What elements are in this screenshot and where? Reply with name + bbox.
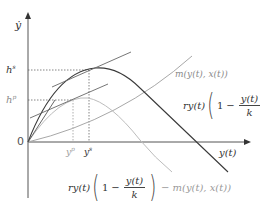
tangent-line-ys [52, 52, 131, 87]
net-numerator: y(t) [124, 175, 145, 188]
yp-label: yp [66, 146, 75, 157]
net-denominator: k [131, 188, 137, 200]
left-paren: ( [93, 172, 100, 202]
growth-denominator: k [246, 106, 252, 118]
net-prefix: ry(t) [68, 182, 90, 193]
hs-sup: s [12, 63, 15, 70]
net-growth-formula: ry(t) ( 1 − y(t) k ) − m(y(t), x(t)) [68, 172, 231, 202]
net-minus: − [111, 182, 119, 193]
origin-label: 0 [17, 136, 24, 147]
net-fraction: y(t) k [124, 175, 145, 200]
hp-sup: p [12, 93, 16, 100]
y-axis-label: ẏ [15, 20, 21, 31]
left-paren: ( [208, 90, 215, 120]
hp-label: hp [6, 94, 16, 105]
net-one: 1 [102, 182, 108, 193]
x-axis-label: y(t) [219, 148, 236, 158]
right-paren: ) [150, 172, 157, 202]
yp-sup: p [71, 145, 75, 152]
growth-numerator: y(t) [239, 93, 260, 106]
growth-prefix: ry(t) [183, 100, 205, 111]
ys-label: ys [84, 146, 92, 157]
growth-formula: ry(t) ( 1 − y(t) k ) [183, 90, 260, 120]
growth-fraction: y(t) k [239, 93, 260, 118]
harvest-label: m(y(t), x(t)) [175, 70, 228, 79]
ys-sup: s [89, 145, 92, 152]
x-axis-arrow-icon [244, 139, 251, 145]
hs-label: hs [6, 64, 16, 75]
growth-minus: − [226, 100, 234, 111]
growth-one: 1 [217, 100, 223, 111]
y-axis-arrow-icon [25, 12, 31, 19]
net-tail: − m(y(t), x(t)) [161, 182, 231, 193]
